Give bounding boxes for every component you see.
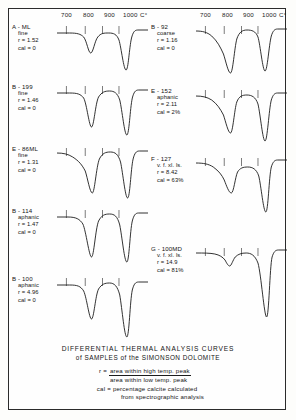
curve-sample-id: G - 100MD	[151, 245, 197, 252]
curve-cal-value: cal = 0	[12, 45, 58, 52]
dta-curve-line	[196, 160, 287, 212]
curve-plot-area	[57, 23, 148, 81]
legend-key-r: r =	[92, 367, 109, 375]
axis-tick-1000: 1000	[262, 11, 277, 18]
axis-tick-700: 700	[61, 11, 72, 18]
curve-label-group: A - MLfiner = 1.52cal = 0	[12, 23, 58, 52]
curve-r-value: r = 14.9	[151, 259, 197, 266]
curve-plot-area	[196, 245, 287, 327]
temperature-axis-right: 700 800 900 1000 C°	[148, 9, 287, 23]
curve-cal-value: cal = 0	[12, 167, 58, 174]
curve-texture: aphanic	[151, 94, 197, 101]
curve-texture: v. f. xl. ls.	[151, 252, 197, 259]
dta-curve-line	[57, 213, 148, 262]
axis-unit-label: C°	[140, 11, 147, 18]
legend-fraction-r: area within high temp. peak area within …	[109, 367, 191, 384]
curve-cal-value: cal = 0	[12, 229, 58, 236]
curve-block: G - 100MDv. f. xl. ls.r = 14.9cal = 81%	[148, 245, 287, 327]
legend-r-denominator: area within low temp. peak	[109, 376, 191, 384]
curve-label-group: B - 199finer = 1.46cal = 0	[12, 83, 58, 112]
curve-block: B - 199finer = 1.46cal = 0	[9, 83, 148, 143]
curve-cal-value: cal = 0	[151, 45, 197, 52]
dta-curve-line	[196, 250, 287, 317]
curve-sample-id: B - 114	[12, 207, 58, 214]
dta-curve-line	[196, 29, 287, 73]
curve-plot-area	[57, 83, 148, 143]
dta-figure: 700 800 900 1000 C° A - MLfiner = 1.52ca…	[0, 0, 296, 420]
curve-r-value: r = 8.42	[151, 169, 197, 176]
curve-sample-id: E - 152	[151, 87, 197, 94]
caption-legend: r = area within high temp. peak area wit…	[92, 367, 204, 401]
axis-tick-1000: 1000	[123, 11, 138, 18]
dta-curve-line	[57, 151, 148, 198]
caption-title-line1: DIFFERENTIAL THERMAL ANALYSIS CURVES	[9, 345, 287, 352]
curve-texture: fine	[12, 90, 58, 97]
legend-key-cal: cal =	[92, 385, 113, 393]
curve-label-group: B - 100aphanicr = 4.96cal = 0	[12, 275, 58, 304]
dta-curve-line	[57, 282, 148, 337]
curve-r-value: r = 2.11	[151, 101, 197, 108]
legend-r-numerator: area within high temp. peak	[109, 367, 191, 376]
curve-label-group: G - 100MDv. f. xl. ls.r = 14.9cal = 81%	[151, 245, 197, 274]
curve-block: B - 114aphanicr = 1.47cal = 0	[9, 207, 148, 269]
curve-texture: fine	[12, 30, 58, 37]
curve-sample-id: B - 100	[12, 275, 58, 282]
curve-block: F - 127v. f. xl. ls.r = 8.42cal = 63%	[148, 155, 287, 217]
dta-curve-line	[57, 30, 148, 70]
axis-tick-800: 800	[83, 11, 94, 18]
curve-texture: coarse	[151, 30, 197, 37]
curve-r-value: r = 1.46	[12, 97, 58, 104]
legend-cal-line1: percentage calcite calculated	[113, 385, 197, 392]
curve-block: B - 92coarser = 1.16cal = 0	[148, 23, 287, 83]
axis-tick-700: 700	[200, 11, 211, 18]
curve-label-group: F - 127v. f. xl. ls.r = 8.42cal = 63%	[151, 155, 197, 184]
curve-cal-value: cal = 81%	[151, 267, 197, 274]
legend-row-r: r = area within high temp. peak area wit…	[92, 367, 204, 384]
curve-sample-id: E - 86ML	[12, 145, 58, 152]
curve-label-group: E - 86MLfiner = 1.31cal = 0	[12, 145, 58, 174]
curve-texture: aphanic	[12, 214, 58, 221]
curve-cal-value: cal = 63%	[151, 177, 197, 184]
curve-r-value: r = 1.31	[12, 159, 58, 166]
dta-curve-line	[57, 90, 148, 135]
curve-plot-area	[57, 207, 148, 269]
curve-block: A - MLfiner = 1.52cal = 0	[9, 23, 148, 81]
figure-plate: 700 800 900 1000 C° A - MLfiner = 1.52ca…	[8, 8, 286, 410]
curve-plot-area	[196, 23, 287, 83]
curve-cal-value: cal = 2%	[151, 109, 197, 116]
curve-r-value: r = 1.16	[151, 37, 197, 44]
axis-tick-900: 900	[243, 11, 254, 18]
curve-texture: aphanic	[12, 282, 58, 289]
legend-cal-text: percentage calcite calculated from spect…	[113, 385, 204, 401]
curve-sample-id: F - 127	[151, 155, 197, 162]
legend-cal-line2: from spectrographic analysis	[113, 393, 204, 401]
curve-plot-area	[57, 275, 148, 343]
curve-sample-id: B - 199	[12, 83, 58, 90]
curve-plot-area	[57, 145, 148, 205]
axis-unit-label: C°	[279, 11, 286, 18]
curve-cal-value: cal = 0	[12, 105, 58, 112]
curve-block: B - 100aphanicr = 4.96cal = 0	[9, 275, 148, 343]
curve-block: E - 86MLfiner = 1.31cal = 0	[9, 145, 148, 205]
curve-r-value: r = 1.52	[12, 37, 58, 44]
curve-texture: fine	[12, 152, 58, 159]
curve-block: E - 152aphanicr = 2.11cal = 2%	[148, 87, 287, 149]
temperature-axis-left: 700 800 900 1000 C°	[9, 9, 148, 23]
caption-title-line2: of SAMPLES of the SIMONSON DOLOMITE	[9, 354, 287, 361]
axis-tick-900: 900	[104, 11, 115, 18]
curve-label-group: E - 152aphanicr = 2.11cal = 2%	[151, 87, 197, 116]
curve-label-group: B - 92coarser = 1.16cal = 0	[151, 23, 197, 52]
dta-curve-line	[196, 93, 287, 141]
curve-texture: v. f. xl. ls.	[151, 162, 197, 169]
curve-sample-id: B - 92	[151, 23, 197, 30]
curve-cal-value: cal = 0	[12, 297, 58, 304]
legend-row-cal: cal = percentage calcite calculated from…	[92, 385, 204, 401]
curve-label-group: B - 114aphanicr = 1.47cal = 0	[12, 207, 58, 236]
figure-caption: DIFFERENTIAL THERMAL ANALYSIS CURVES of …	[9, 345, 287, 401]
curve-r-value: r = 1.47	[12, 221, 58, 228]
curve-plot-area	[196, 155, 287, 217]
curve-plot-area	[196, 87, 287, 149]
axis-tick-800: 800	[222, 11, 233, 18]
curve-r-value: r = 4.96	[12, 289, 58, 296]
curve-sample-id: A - ML	[12, 23, 58, 30]
